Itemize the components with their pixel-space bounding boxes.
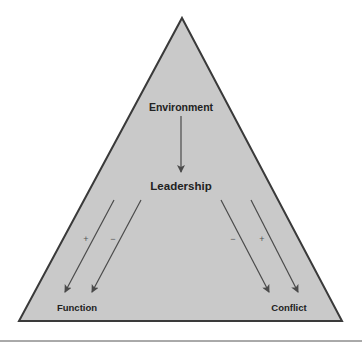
- diagram-canvas: Environment Leadership Function Conflict…: [0, 0, 362, 348]
- sign-conflict-plus: +: [259, 234, 264, 244]
- node-leadership: Leadership: [150, 180, 211, 192]
- sign-conflict-minus: −: [230, 234, 235, 244]
- node-conflict: Conflict: [271, 302, 307, 313]
- node-environment: Environment: [149, 101, 214, 113]
- sign-function-plus: +: [83, 234, 88, 244]
- sign-function-minus: −: [110, 234, 115, 244]
- node-function: Function: [57, 302, 97, 313]
